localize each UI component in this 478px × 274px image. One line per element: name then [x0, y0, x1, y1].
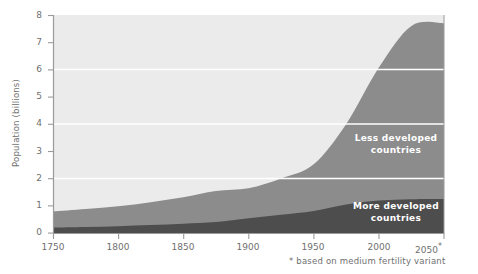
x-tick-label-2000: 2000	[354, 242, 404, 252]
area-label-more-developed: More developed countries	[336, 201, 456, 224]
x-tick-label-1800: 1800	[93, 242, 143, 252]
area-label-less-developed-line1: Less developed	[336, 133, 456, 145]
y-tick-label-7: 7	[16, 37, 42, 47]
y-tick-label-6: 6	[16, 64, 42, 74]
chart-footnote: * based on medium fertility variant	[289, 256, 445, 266]
area-label-more-developed-line1: More developed	[336, 201, 456, 213]
x-tick-label-1750: 1750	[28, 242, 78, 252]
x-tick-label-2050: 2050*	[415, 242, 465, 255]
area-label-less-developed: Less developed countries	[336, 133, 456, 156]
x-tick-label-2050-asterisk: *	[438, 242, 442, 251]
x-axis-ticks	[54, 234, 445, 240]
y-tick-label-4: 4	[16, 118, 42, 128]
area-label-more-developed-line2: countries	[336, 213, 456, 225]
y-axis-ticks	[48, 16, 53, 234]
y-tick-label-8: 8	[16, 10, 42, 20]
y-tick-label-3: 3	[16, 146, 42, 156]
x-tick-label-1950: 1950	[288, 242, 338, 252]
y-tick-label-5: 5	[16, 91, 42, 101]
x-tick-label-1850: 1850	[158, 242, 208, 252]
x-tick-label-2050-year: 2050	[415, 245, 438, 255]
y-tick-label-2: 2	[16, 173, 42, 183]
population-growth-area-chart: Population (billions) 8 7 6 5 4 3 2 1 0 …	[0, 0, 478, 274]
y-tick-label-0: 0	[16, 227, 42, 237]
y-tick-label-1: 1	[16, 200, 42, 210]
x-tick-label-1900: 1900	[223, 242, 273, 252]
area-label-less-developed-line2: countries	[336, 145, 456, 157]
